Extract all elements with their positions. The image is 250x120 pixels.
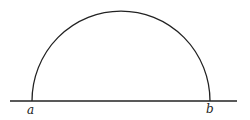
point-label-a: a [27, 103, 34, 117]
point-label-b: b [206, 102, 214, 116]
semicircle-arc [32, 11, 210, 101]
